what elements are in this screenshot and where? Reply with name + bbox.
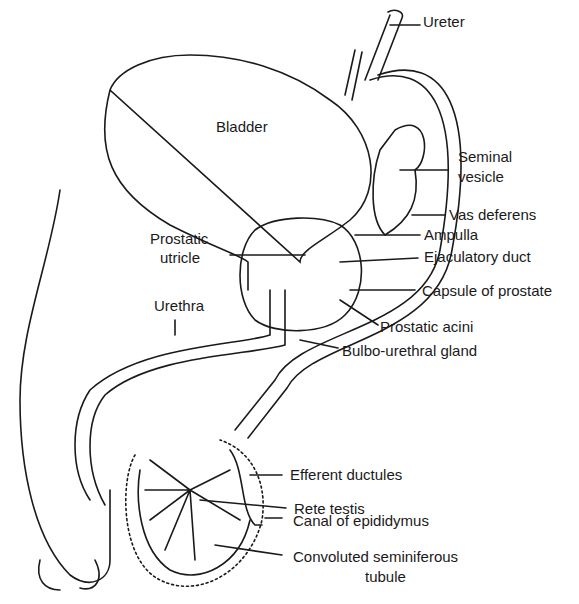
label-canal-of-epididymus: Canal of epididymus: [293, 512, 429, 530]
label-bladder: Bladder: [216, 118, 268, 136]
label-convoluted-1: Convoluted seminiferous: [293, 548, 458, 566]
label-efferent-ductules: Efferent ductules: [290, 466, 402, 484]
label-prostatic-acini: Prostatic acini: [380, 318, 473, 336]
label-convoluted-2: tubule: [365, 568, 406, 586]
label-ureter: Ureter: [423, 13, 465, 31]
label-ejaculatory-duct: Ejaculatory duct: [424, 248, 531, 266]
label-ampulla: Ampulla: [424, 226, 478, 244]
label-bulbo-urethral-gland: Bulbo-urethral gland: [342, 342, 477, 360]
label-seminal-vesicle-1: Seminal: [458, 148, 512, 166]
label-prostatic-utricle-1: Prostatic: [150, 230, 208, 248]
label-urethra: Urethra: [154, 297, 204, 315]
anatomy-diagram: Ureter Bladder Seminal vesicle Vas defer…: [0, 0, 579, 604]
label-prostatic-utricle-2: utricle: [160, 249, 200, 267]
anatomy-drawing: [0, 0, 579, 604]
label-capsule-of-prostate: Capsule of prostate: [422, 282, 552, 300]
label-seminal-vesicle-2: vesicle: [458, 168, 504, 186]
label-vas-deferens: Vas deferens: [449, 206, 536, 224]
